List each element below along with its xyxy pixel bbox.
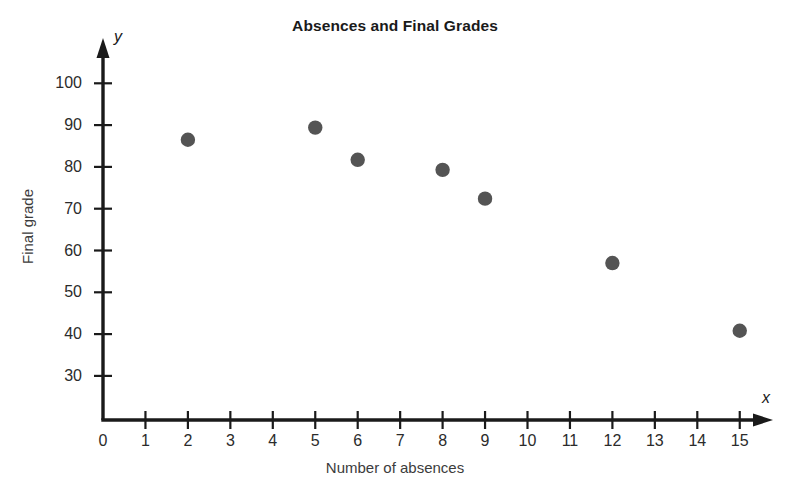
data-point — [478, 191, 492, 205]
y-axis-arrowhead — [97, 38, 110, 58]
x-axis-arrowhead — [753, 414, 773, 427]
plot-area — [0, 0, 790, 503]
x-tick-label: 3 — [217, 432, 243, 450]
y-tick-label: 60 — [28, 242, 82, 260]
data-point — [435, 163, 449, 177]
data-point — [351, 153, 365, 167]
x-tick-label: 5 — [302, 432, 328, 450]
y-tick-label: 70 — [28, 200, 82, 218]
y-tick-label: 30 — [28, 367, 82, 385]
y-tick-label: 80 — [28, 158, 82, 176]
x-tick-label: 6 — [345, 432, 371, 450]
x-tick-label: 15 — [727, 432, 753, 450]
x-tick-label: 1 — [132, 432, 158, 450]
x-tick-label: 11 — [557, 432, 583, 450]
y-tick-label: 90 — [28, 116, 82, 134]
x-tick-label: 0 — [90, 432, 116, 450]
data-point — [181, 133, 195, 147]
y-tick-label: 40 — [28, 325, 82, 343]
x-tick-label: 14 — [684, 432, 710, 450]
x-tick-label: 2 — [175, 432, 201, 450]
data-point — [308, 120, 322, 134]
data-point — [733, 324, 747, 338]
data-point — [605, 256, 619, 270]
scatter-chart: Absences and Final Grades y x Final grad… — [0, 0, 790, 503]
x-tick-label: 13 — [642, 432, 668, 450]
x-tick-label: 12 — [599, 432, 625, 450]
x-tick-label: 8 — [430, 432, 456, 450]
x-tick-label: 4 — [260, 432, 286, 450]
x-tick-label: 10 — [515, 432, 541, 450]
data-points-group — [181, 120, 747, 338]
x-tick-label: 7 — [387, 432, 413, 450]
y-tick-label: 100 — [28, 74, 82, 92]
axes-group — [97, 38, 774, 427]
x-tick-label: 9 — [472, 432, 498, 450]
y-tick-label: 50 — [28, 283, 82, 301]
